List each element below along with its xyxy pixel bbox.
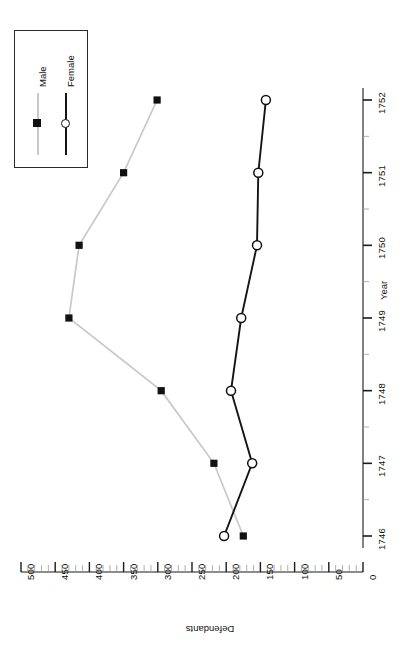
defendants-tick-label: 150 [264, 564, 275, 580]
chart-page: 500450400350300250200150100500 174617471… [0, 0, 420, 655]
legend-entry-male: Male [23, 41, 53, 159]
data-point-marker [248, 459, 257, 468]
year-tick-label: 1747 [376, 455, 387, 477]
defendants-tick-label: 50 [333, 569, 344, 580]
defendants-tick-label: 400 [93, 564, 104, 580]
data-point-marker [227, 386, 236, 395]
defendants-tick-label: 450 [59, 564, 70, 580]
legend-entry-female: Female [51, 41, 81, 159]
year-axis [363, 88, 372, 548]
chart-legend: Male Female [14, 30, 88, 168]
data-point-marker [210, 460, 217, 467]
data-point-marker [220, 532, 229, 541]
year-tick-label: 1749 [376, 310, 387, 332]
series-line [69, 100, 243, 536]
defendants-tick-label: 100 [299, 564, 310, 580]
defendants-tick-label: 500 [25, 564, 36, 580]
data-point-marker [76, 242, 83, 249]
legend-label-female: Female [65, 55, 76, 87]
data-point-marker [65, 314, 72, 321]
series-female [220, 96, 271, 541]
defendants-tick-label: 0 [367, 575, 378, 580]
defendants-major-ticks [21, 562, 363, 572]
data-point-marker [261, 96, 270, 105]
legend-label-male: Male [37, 66, 48, 87]
data-point-marker [120, 169, 127, 176]
data-point-marker [237, 314, 246, 323]
defendants-axis-title: Defendants [0, 624, 420, 635]
defendants-tick-label: 350 [128, 564, 139, 580]
defendants-tick-label: 250 [196, 564, 207, 580]
year-tick-label: 1751 [376, 165, 387, 187]
series-layer [65, 96, 270, 541]
year-tick-label: 1752 [376, 92, 387, 114]
data-point-marker [254, 168, 263, 177]
data-point-marker [253, 241, 262, 250]
defendants-tick-label: 200 [230, 564, 241, 580]
series-male [65, 96, 247, 539]
filled-square-marker-icon [33, 119, 41, 127]
year-tick-label: 1746 [376, 528, 387, 550]
year-tick-label: 1750 [376, 237, 387, 259]
year-major-ticks [363, 100, 372, 536]
defendants-axis [21, 562, 363, 572]
year-tick-label: 1748 [376, 383, 387, 405]
data-point-marker [240, 532, 247, 539]
open-circle-marker-icon [61, 119, 70, 128]
data-point-marker [154, 96, 161, 103]
year-axis-title: Year [378, 281, 389, 300]
defendants-tick-label: 300 [162, 564, 173, 580]
data-point-marker [158, 387, 165, 394]
